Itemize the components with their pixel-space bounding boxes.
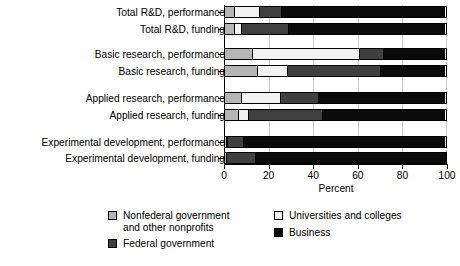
bar-segment-business — [318, 93, 445, 103]
legend-swatch-nonfederal-icon — [108, 211, 117, 220]
bar-segment-universities — [234, 7, 260, 17]
bar-segment-business — [281, 7, 445, 17]
bar-segment-federal — [226, 153, 256, 163]
bar-segment-business — [255, 153, 446, 163]
bar-segment-business — [288, 24, 445, 34]
x-tick-mark — [402, 165, 403, 169]
x-tick-mark — [269, 165, 270, 169]
bar-segment-universities — [257, 66, 287, 76]
bar-segment-federal — [359, 49, 384, 59]
stacked-bar — [224, 23, 447, 35]
legend-entry-universities: Universities and colleges — [274, 210, 438, 222]
bar-segment-federal — [280, 93, 319, 103]
bar-segment-nonfederal — [225, 49, 253, 59]
bar-segment-federal — [259, 7, 282, 17]
stacked-bar — [224, 6, 447, 18]
x-tick-label: 20 — [263, 170, 274, 181]
legend-entry-federal: Federal government — [108, 238, 278, 250]
x-axis-line — [224, 164, 448, 165]
category-label: Applied research, performance — [86, 93, 225, 104]
x-tick-label: 60 — [352, 170, 363, 181]
x-tick-mark — [313, 165, 314, 169]
x-tick-mark — [447, 165, 448, 169]
bar-segment-nonfederal — [225, 93, 242, 103]
category-label: Experimental development, performance — [42, 137, 225, 148]
bar-row — [224, 92, 447, 104]
category-label: Basic research, performance — [95, 49, 225, 60]
bar-segment-business — [322, 110, 445, 120]
legend-swatch-business-icon — [274, 228, 283, 237]
bar-segment-business — [383, 49, 445, 59]
bar-segment-federal — [287, 66, 382, 76]
stacked-bar — [224, 92, 447, 104]
x-tick-label: 80 — [397, 170, 408, 181]
x-tick-mark — [358, 165, 359, 169]
bar-segment-federal — [248, 110, 324, 120]
legend-label-federal: Federal government — [123, 238, 214, 250]
category-label: Basic research, funding — [119, 66, 225, 77]
bar-row — [224, 109, 447, 121]
category-label: Total R&D, performance — [116, 7, 225, 18]
stacked-bar — [224, 152, 447, 164]
bar-row — [224, 152, 447, 164]
x-tick-label: 100 — [439, 170, 456, 181]
bar-segment-universities — [241, 93, 281, 103]
stacked-bar — [224, 65, 447, 77]
bar-segment-federal — [241, 24, 289, 34]
legend-entry-business: Business — [274, 227, 438, 239]
x-tick-mark — [224, 165, 225, 169]
bar-row — [224, 6, 447, 18]
bar-segment-nonfederal — [225, 110, 239, 120]
category-label: Applied research, funding — [109, 110, 225, 121]
legend-label-universities: Universities and colleges — [289, 210, 402, 222]
bar-row — [224, 136, 447, 148]
bar-segment-business — [243, 137, 445, 147]
legend-entry-nonfederal: Nonfederal government and other nonprofi… — [108, 210, 278, 233]
legend-column-left: Nonfederal government and other nonprofi… — [108, 210, 278, 255]
bar-row — [224, 23, 447, 35]
legend-label-business: Business — [289, 227, 330, 239]
x-axis-title: Percent — [224, 183, 448, 194]
legend-label-nonfederal: Nonfederal government and other nonprofi… — [123, 210, 229, 233]
legend-column-right: Universities and colleges Business — [274, 210, 438, 243]
bar-segment-nonfederal — [225, 66, 258, 76]
legend-swatch-federal-icon — [108, 239, 117, 248]
category-label: Experimental development, funding — [65, 153, 225, 164]
stacked-bar — [224, 109, 447, 121]
stacked-bar — [224, 136, 447, 148]
bar-row — [224, 65, 447, 77]
stacked-bar-chart: Total R&D, performanceTotal R&D, funding… — [0, 0, 460, 266]
x-tick-label: 0 — [221, 170, 227, 181]
stacked-bar — [224, 48, 447, 60]
legend-swatch-universities-icon — [274, 211, 283, 220]
bar-segment-business — [380, 66, 445, 76]
bar-segment-universities — [252, 49, 360, 59]
bar-row — [224, 48, 447, 60]
bar-segment-federal — [227, 137, 244, 147]
category-label: Total R&D, funding — [140, 24, 225, 35]
x-tick-label: 40 — [308, 170, 319, 181]
